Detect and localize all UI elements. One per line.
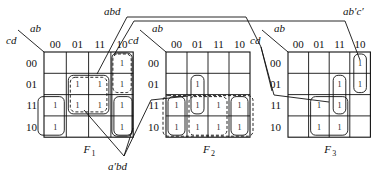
cell-value: 1 [120,80,124,89]
cell-value: 1 [53,101,57,110]
row-label: 11 [26,99,37,111]
cell-value: 1 [175,101,179,110]
map-name: F [83,143,91,155]
cell-value: 1 [196,101,200,110]
cell-value: 1 [98,101,102,110]
kmap-canvas: abcd00011110000111101111111111F1abcd0001… [0,0,386,177]
cell-value: 1 [75,101,79,110]
row-label: 11 [270,99,281,111]
annotation-a-prime-bd: a′bd [108,160,127,172]
row-label: 01 [148,78,159,90]
row-label: 00 [270,57,282,69]
cell-value: 1 [75,80,79,89]
row-label: 10 [26,121,38,133]
kmap-F3: abcd00011110000111101111111F3 [250,22,370,158]
cell-value: 1 [98,80,102,89]
column-label: 01 [192,38,203,50]
map-subscript: 1 [92,149,96,158]
column-label: 11 [213,38,224,50]
cell-value: 1 [317,123,321,132]
column-label: 11 [334,38,345,50]
cell-value: 1 [217,101,221,110]
row-variable-label: cd [128,34,139,46]
map-name: F [323,143,331,155]
cell-value: 1 [317,101,321,110]
cell-value: 1 [120,123,124,132]
cell-value: 1 [217,123,221,132]
cell-value: 1 [358,59,362,68]
row-label: 10 [148,121,160,133]
column-label: 01 [313,38,324,50]
annotation-abd: abd [104,5,121,17]
column-variable-label: ab [274,22,286,34]
column-label: 00 [50,38,62,50]
cell-value: 1 [120,59,124,68]
map-subscript: 3 [332,149,336,158]
column-label: 10 [234,38,246,50]
cell-value: 1 [338,80,342,89]
cell-value: 1 [120,101,124,110]
connector-a-prime-bd-f1col10 [124,128,133,156]
cell-value: 1 [358,80,362,89]
column-label: 00 [293,38,305,50]
cell-value: 1 [338,101,342,110]
row-label: 00 [26,57,38,69]
cell-value: 1 [53,123,57,132]
annotation-ab-c-prime: ab′c′ [343,5,364,17]
row-label: 00 [148,57,160,69]
row-variable-label: cd [6,34,17,46]
cell-value: 1 [196,123,200,132]
column-label: 00 [171,38,183,50]
cell-value: 1 [196,80,200,89]
cell-value: 1 [338,123,342,132]
connector-abd-to-f3 [261,47,329,102]
map-name: F [202,143,210,155]
karnaugh-maps-diagram: abcd00011110000111101111111111F1abcd0001… [0,0,386,177]
cell-value: 1 [175,123,179,132]
column-label: 11 [94,38,105,50]
column-label: 01 [72,38,83,50]
column-variable-label: ab [30,22,42,34]
cell-value: 1 [238,123,242,132]
column-variable-label: ab [152,22,164,34]
kmap-F2: abcd0001111000011110111111111F2 [128,22,253,158]
column-label: 10 [355,38,367,50]
row-label: 01 [26,78,37,90]
maps-layer: abcd00011110000111101111111111F1abcd0001… [6,22,370,158]
row-label: 10 [270,121,282,133]
cell-value: 1 [238,101,242,110]
map-subscript: 2 [211,149,215,158]
